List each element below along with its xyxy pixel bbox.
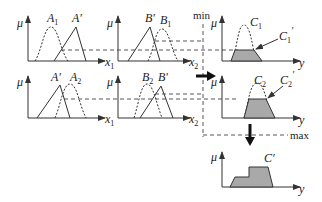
mu-label: μ	[106, 16, 113, 30]
clipped-C1-prime-area	[231, 50, 262, 61]
y-label: y	[298, 56, 305, 70]
fact-B-prime-label: B′	[145, 11, 155, 25]
x1-label: x1	[104, 55, 114, 71]
mu-label: μ	[106, 75, 113, 89]
clipped-C1-prime-label: C1′	[279, 25, 294, 45]
max-operator-label: max	[290, 129, 309, 141]
set-C1-label: C1	[250, 15, 262, 31]
fact-B-prime-label: B′	[158, 70, 168, 84]
fact-A-prime-label: A′	[71, 11, 82, 25]
mu-label: μ	[210, 16, 217, 30]
set-A1-curve	[35, 27, 68, 61]
mu-label: μ	[16, 16, 23, 30]
panel-aggregated-output: μ y C′	[210, 150, 305, 196]
set-B1-label: B1	[160, 13, 171, 29]
set-B2-label: B2	[142, 70, 153, 86]
panel-rule2-input1: μ x1 A′ A2	[16, 70, 238, 128]
fact-B-prime-triangle	[128, 27, 160, 61]
aggregated-C-prime-area	[230, 167, 273, 187]
set-A2-label: A2	[69, 70, 81, 86]
fact-A-prime-triangle	[37, 85, 70, 118]
set-B2-curve	[134, 84, 162, 118]
aggregated-C-prime-label: C′	[264, 151, 275, 165]
set-A1-label: A1	[46, 11, 58, 27]
clipped-C2-prime-area	[244, 99, 275, 118]
set-C2-label: C2	[254, 73, 266, 89]
x2-label: x2	[188, 112, 198, 128]
y-label: y	[298, 182, 305, 196]
y-label: y	[298, 113, 305, 127]
fact-A-prime-triangle	[54, 27, 86, 61]
mu-label: μ	[210, 150, 217, 164]
fuzzy-inference-diagram: μ x1 A1 A′ μ x2 B′ B1 min μ y C1	[0, 0, 322, 202]
min-operator-label: min	[193, 9, 211, 21]
x2-label: x2	[188, 55, 198, 71]
panel-rule2-output: μ y C2 C2′	[210, 69, 305, 127]
set-A2-curve	[55, 84, 86, 118]
mu-label: μ	[210, 75, 217, 89]
clipped-C2-prime-label: C2′	[280, 69, 295, 89]
pointer-arrow	[268, 86, 283, 98]
mu-label: μ	[16, 75, 23, 89]
pointer-arrow	[256, 39, 278, 49]
x1-label: x1	[104, 112, 114, 128]
fact-A-prime-label: A′	[50, 70, 61, 84]
panel-rule1-output: μ y C1 C1′	[210, 15, 305, 70]
panel-rule1-input2: μ x2 B′ B1	[106, 11, 203, 71]
